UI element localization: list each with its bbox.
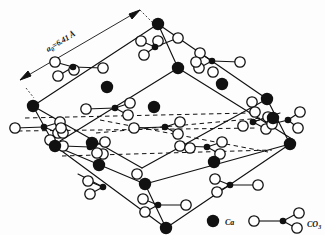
oxygen-atom [56,123,66,133]
oxygen-atom [253,180,263,190]
oxygen-atom [173,129,183,139]
carbon-atom [70,64,77,71]
oxygen-atom [181,200,191,210]
oxygen-atom [293,123,303,133]
calcium-atom [93,159,105,171]
calcium-atom [160,222,172,234]
legend-oxygen-marker [294,208,304,218]
calcite-unit-cell-drawing: a0=6.41Å [0,0,325,235]
oxygen-atom [85,189,95,199]
calcium-atom [27,100,39,112]
oxygen-atom [210,174,220,184]
legend-oxygen-marker [249,216,259,226]
carbon-atom [152,44,159,51]
calcium-atom [101,81,113,93]
calcium-atom [284,138,296,150]
oxygen-atom [53,71,63,81]
calcium-atom [208,156,220,168]
carbon-atom [250,119,257,126]
oxygen-atom [175,117,185,127]
oxygen-atom [139,50,149,60]
calcium-atom [152,18,164,30]
calcium-atom [49,140,61,152]
oxygen-atom [295,107,305,117]
oxygen-atom [125,98,135,108]
calcium-atom [139,178,151,190]
oxygen-atom [136,36,146,46]
carbon-atom [209,58,216,65]
oxygen-atom [98,63,108,73]
oxygen-atom [129,123,139,133]
oxygen-atom [175,141,185,151]
carbon-atom [285,117,292,124]
oxygen-atom [238,121,248,131]
oxygen-atom [138,194,148,204]
legend-calcium-marker [207,215,219,227]
oxygen-atom [173,33,183,43]
oxygen-atom [81,104,91,114]
oxygen-atom [247,97,257,107]
oxygen-atom [100,137,110,147]
carbon-atom [155,202,162,209]
oxygen-atom [217,137,227,147]
oxygen-atom [208,67,218,77]
legend-oxygen-marker [292,223,302,233]
oxygen-atom [235,57,245,67]
oxygen-atom [212,187,222,197]
calcium-atom [86,137,98,149]
carbon-atom [100,184,107,191]
oxygen-atom [132,169,142,179]
oxygen-atom [83,176,93,186]
calcium-atom [148,101,160,113]
carbon-atom [204,144,211,151]
carbon-atom [112,105,119,112]
calcium-atom [267,112,279,124]
oxygen-atom [250,107,260,117]
oxygen-atom [140,207,150,217]
calcium-atom [172,62,184,74]
oxygen-atom [50,57,60,67]
carbon-atom [227,182,234,189]
oxygen-atom [191,57,201,67]
oxygen-atom [185,143,195,153]
oxygen-atom [123,110,133,120]
calcium-atom [216,78,228,90]
legend-carbon-marker [280,218,287,225]
calcium-atom [261,93,273,105]
oxygen-atom [92,148,102,158]
legend-calcium-label: Ca [225,218,234,227]
crystal-structure-figure: a0=6.41Å [0,0,325,235]
oxygen-atom [10,123,20,133]
carbon-atom [41,124,48,131]
carbon-atom [162,124,169,131]
